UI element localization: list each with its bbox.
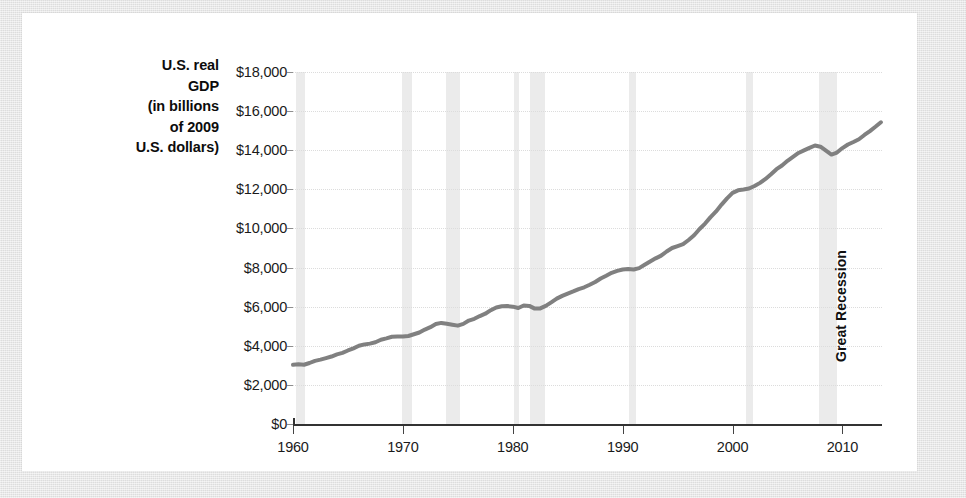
x-tick-label: 1980 [497, 439, 528, 455]
y-axis-title-line: U.S. real [84, 55, 219, 76]
x-tick-mark [293, 426, 294, 434]
y-tick-label: $6,000 [215, 299, 287, 315]
x-axis: 196019701980199020002010 [293, 424, 882, 426]
x-tick-mark [733, 426, 734, 434]
y-tick-label: $18,000 [215, 64, 287, 80]
y-axis-title-line: of 2009 [84, 117, 219, 138]
great-recession-annotation: Great Recession [833, 250, 849, 362]
x-tick-mark [842, 426, 843, 434]
y-tick-label: $8,000 [215, 260, 287, 276]
y-tick-label: $14,000 [215, 142, 287, 158]
gdp-line-path [293, 122, 881, 364]
x-tick-label: 1970 [387, 439, 418, 455]
y-axis-title-line: U.S. dollars) [84, 137, 219, 158]
x-tick-mark [403, 426, 404, 434]
x-tick-label: 1990 [607, 439, 638, 455]
y-tick-label: $2,000 [215, 377, 287, 393]
y-tick-label: $12,000 [215, 181, 287, 197]
y-axis-title-line: GDP [84, 76, 219, 97]
y-axis-tick-labels: $18,000$16,000$14,000$12,000$10,000$8,00… [215, 72, 287, 424]
y-tick-label: $16,000 [215, 103, 287, 119]
x-tick-mark [513, 426, 514, 434]
y-tick-label: $0 [215, 416, 287, 432]
y-axis-title: U.S. realGDP(in billionsof 2009U.S. doll… [84, 55, 219, 158]
figure-card: U.S. realGDP(in billionsof 2009U.S. doll… [22, 13, 917, 471]
y-tick-label: $4,000 [215, 338, 287, 354]
plot-area [293, 72, 882, 424]
x-tick-mark [623, 426, 624, 434]
x-tick-label: 2000 [717, 439, 748, 455]
x-tick-label: 1960 [277, 439, 308, 455]
gdp-line-series [293, 72, 882, 424]
y-axis-title-line: (in billions [84, 96, 219, 117]
x-tick-label: 2010 [827, 439, 858, 455]
y-tick-label: $10,000 [215, 220, 287, 236]
